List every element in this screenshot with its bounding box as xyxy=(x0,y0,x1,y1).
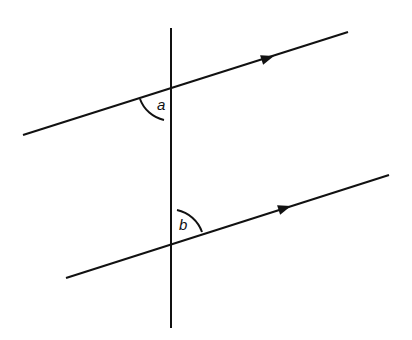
upper-arrowhead-icon xyxy=(260,51,275,64)
angle-a-label: a xyxy=(157,96,165,113)
upper-parallel-line xyxy=(23,32,348,135)
lower-parallel-line xyxy=(66,175,389,278)
parallel-lines-diagram: a b xyxy=(0,0,412,340)
angle-b-label: b xyxy=(179,216,187,233)
lower-arrowhead-icon xyxy=(277,201,292,214)
